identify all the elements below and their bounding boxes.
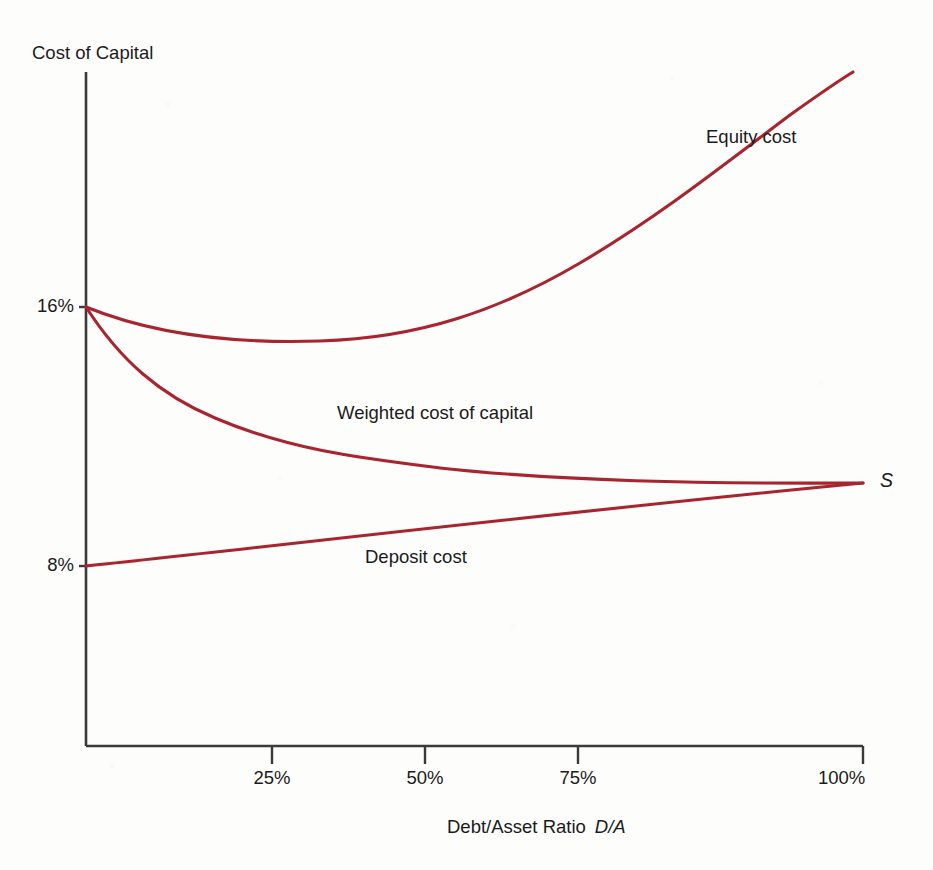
- x-axis-title: Debt/Asset RatioD/A: [447, 818, 626, 837]
- y-axis-title: Cost of Capital: [32, 44, 153, 63]
- x-tick-label-100: 100%: [818, 769, 908, 788]
- convergence-point-label-s: S: [880, 471, 893, 491]
- x-axis-title-text: Debt/Asset Ratio: [447, 816, 586, 837]
- series-label-equity-cost: Equity cost: [706, 128, 797, 147]
- y-tick-label-16: 16%: [16, 297, 74, 316]
- weighted-cost-of-capital-curve: [86, 307, 863, 483]
- x-tick-marks: [272, 746, 863, 764]
- x-tick-label-50: 50%: [385, 769, 465, 788]
- equity-cost-curve: [86, 72, 853, 341]
- deposit-cost-curve: [86, 483, 863, 566]
- x-tick-label-75: 75%: [538, 769, 618, 788]
- y-tick-label-8: 8%: [16, 556, 74, 575]
- x-tick-label-25: 25%: [232, 769, 312, 788]
- x-axis-title-symbol: D/A: [586, 816, 626, 837]
- series-label-deposit-cost: Deposit cost: [365, 548, 467, 567]
- cost-of-capital-chart-figure: Cost of Capital Debt/Asset RatioD/A 16% …: [0, 0, 933, 870]
- series-label-weighted-cost-of-capital: Weighted cost of capital: [337, 404, 533, 423]
